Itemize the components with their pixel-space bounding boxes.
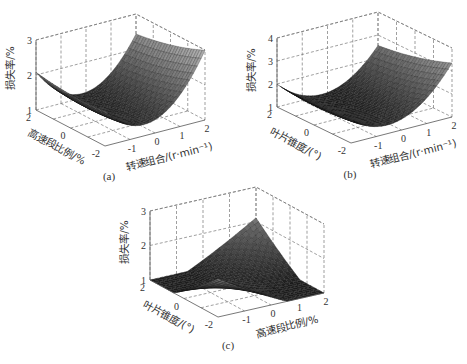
- z-axis-label: 损失率/%: [4, 46, 16, 90]
- y-tick-label: 0: [304, 127, 309, 138]
- surface-plot-a: 12320-2-1012转速组合/(r·min⁻¹)高速段比例/%损失率/%: [4, 14, 214, 173]
- x-tick-label: 1: [180, 130, 185, 141]
- caption-c: (c): [222, 339, 235, 352]
- y-tick-label: -2: [338, 145, 346, 156]
- y-axis-label: 叶片锥度/(°): [268, 125, 324, 162]
- x-axis-label: 高速段比例/%: [255, 313, 320, 340]
- y-tick-label: 2: [26, 112, 31, 123]
- y-axis-label: 叶片锥度/(°): [141, 298, 197, 335]
- y-tick-label: 0: [61, 130, 66, 141]
- x-tick-label: 2: [452, 120, 457, 131]
- surface-plot-c: 12320-2-1012高速段比例/%叶片锥度/(°)损失率/%: [118, 187, 329, 340]
- x-tick-label: 1: [426, 127, 431, 138]
- surface-mesh: [277, 45, 452, 126]
- x-tick-label: 0: [271, 308, 276, 319]
- x-tick-label: 0: [155, 136, 160, 147]
- z-tick-label: 3: [27, 35, 32, 46]
- x-tick-label: 0: [401, 133, 406, 144]
- y-tick-label: 2: [140, 282, 145, 293]
- x-tick-label: -1: [374, 140, 382, 151]
- caption-a: (a): [103, 170, 116, 183]
- figure-canvas: 12320-2-1012转速组合/(r·min⁻¹)高速段比例/%损失率/% 1…: [0, 0, 467, 364]
- z-tick-label: 4: [268, 33, 273, 44]
- surface-plot-b: 123420-2-1012转速组合/(r·min⁻¹)叶片锥度/(°)损失率/%: [245, 12, 458, 170]
- z-tick-label: 3: [141, 206, 146, 217]
- z-axis-label: 损失率/%: [118, 220, 130, 264]
- x-tick-label: 2: [324, 296, 329, 307]
- x-tick-label: -1: [128, 143, 136, 154]
- caption-b: (b): [344, 168, 357, 181]
- y-tick-label: -2: [92, 148, 100, 159]
- x-axis-label: 转速组合/(r·min⁻¹): [124, 140, 213, 173]
- z-tick-label: 2: [268, 79, 273, 90]
- surface-mesh: [150, 218, 324, 302]
- x-tick-label: -1: [242, 314, 250, 325]
- y-tick-label: 2: [267, 109, 272, 120]
- y-tick-label: -2: [205, 319, 213, 330]
- z-tick-label: 3: [268, 56, 273, 67]
- x-tick-label: 1: [297, 302, 302, 313]
- z-tick-label: 2: [27, 70, 32, 81]
- x-tick-label: 2: [205, 123, 210, 134]
- y-tick-label: 0: [174, 301, 179, 312]
- z-tick-label: 2: [141, 240, 146, 251]
- z-axis-label: 损失率/%: [245, 48, 257, 92]
